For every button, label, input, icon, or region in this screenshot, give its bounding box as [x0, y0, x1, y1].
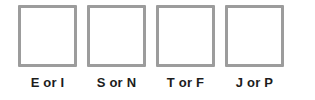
dichotomy-label-4: J or P — [236, 76, 273, 90]
dichotomy-cell-1: E or I — [18, 5, 77, 90]
type-entry-widget: E or I S or N T or F J or P — [0, 0, 315, 100]
dichotomy-cell-3: T or F — [156, 5, 215, 90]
letter-box-2[interactable] — [87, 5, 146, 67]
dichotomy-cell-4: J or P — [225, 5, 284, 90]
letter-box-4[interactable] — [225, 5, 284, 67]
dichotomy-label-1: E or I — [31, 76, 65, 90]
dichotomy-label-3: T or F — [167, 76, 204, 90]
dichotomy-label-2: S or N — [97, 76, 136, 90]
letter-box-3[interactable] — [156, 5, 215, 67]
dichotomy-group: E or I S or N T or F J or P — [0, 5, 315, 97]
dichotomy-cell-2: S or N — [87, 5, 146, 90]
letter-box-1[interactable] — [18, 5, 77, 67]
